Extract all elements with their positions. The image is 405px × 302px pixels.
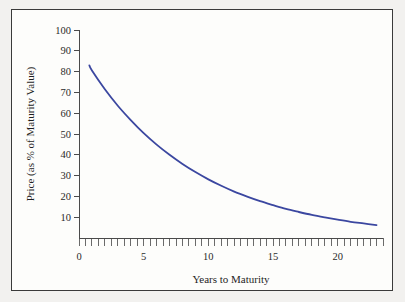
y-tick-label-30: 30 [61, 170, 72, 181]
y-tick-label-50: 50 [61, 129, 72, 140]
y-tick-label-60: 60 [61, 108, 72, 119]
x-tick-label-0: 0 [76, 251, 81, 262]
x-axis-tick-labels: 05101520 [76, 251, 343, 262]
price-curve [89, 65, 376, 225]
x-tick-label-5: 5 [141, 251, 146, 262]
y-axis-tick-labels: 102030405060708090100 [55, 25, 71, 223]
y-tick-label-70: 70 [61, 87, 72, 98]
y-tick-label-10: 10 [61, 212, 72, 223]
x-axis-title: Years to Maturity [192, 273, 270, 285]
plot-surface: 102030405060708090100 05101520 Years to … [12, 10, 394, 292]
x-tick-label-10: 10 [203, 251, 214, 262]
y-tick-label-100: 100 [55, 25, 71, 36]
y-tick-label-80: 80 [61, 66, 72, 77]
figure-frame: 102030405060708090100 05101520 Years to … [11, 9, 393, 291]
x-tick-label-20: 20 [332, 251, 343, 262]
figure-container: 102030405060708090100 05101520 Years to … [0, 0, 405, 302]
y-tick-label-20: 20 [61, 191, 72, 202]
y-tick-label-40: 40 [61, 149, 72, 160]
y-axis-tick-marks [74, 30, 79, 217]
y-axis-title: Price (as % of Maturity Value) [24, 66, 37, 201]
y-tick-label-90: 90 [61, 45, 72, 56]
x-axis-tick-marks [79, 238, 383, 246]
price-vs-maturity-chart: 102030405060708090100 05101520 Years to … [12, 10, 394, 292]
x-tick-label-15: 15 [268, 251, 279, 262]
